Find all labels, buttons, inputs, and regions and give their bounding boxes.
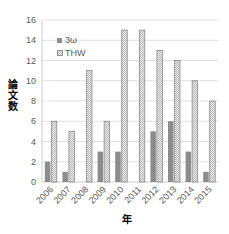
- bar-3w: [98, 152, 104, 182]
- x-tick-label: 2007: [52, 184, 73, 205]
- bar-thw: [51, 121, 57, 182]
- bar-thw: [69, 131, 75, 182]
- y-tick-label: 10: [26, 76, 36, 86]
- x-tick-label: 2008: [69, 184, 90, 205]
- x-tick-label: 2011: [122, 184, 143, 205]
- x-tick-label: 2012: [140, 184, 161, 205]
- bar-thw: [87, 71, 93, 182]
- x-axis-title: 年: [122, 213, 132, 225]
- bar-thw: [139, 30, 145, 182]
- y-tick-label: 4: [31, 137, 36, 147]
- legend-swatch-3w: [57, 38, 62, 43]
- bar-thw: [210, 101, 216, 182]
- y-tick-label: 12: [26, 56, 36, 66]
- bar-3w: [62, 172, 68, 182]
- legend: 3ω THW: [57, 35, 86, 58]
- bar-thw: [104, 121, 110, 182]
- x-tick-label: 2006: [34, 184, 55, 205]
- bar-thw: [175, 61, 181, 183]
- y-tick-label: 2: [31, 157, 36, 167]
- y-tick-label: 6: [31, 116, 36, 126]
- y-tick-label: 8: [31, 96, 36, 106]
- bar-3w: [203, 172, 209, 182]
- bar-thw: [192, 81, 198, 182]
- legend-swatch-thw: [58, 51, 63, 56]
- bar-chart: 0246810121416 20062007200820092010201120…: [0, 0, 229, 234]
- bar-3w: [45, 162, 51, 182]
- bar-thw: [122, 30, 128, 182]
- y-tick-label: 14: [26, 35, 36, 45]
- bar-thw: [157, 50, 163, 182]
- x-tick-label: 2009: [87, 184, 108, 205]
- x-tick-label: 2015: [192, 184, 213, 205]
- x-tick-label: 2013: [157, 184, 178, 205]
- bar-3w: [150, 131, 156, 182]
- x-tick-label: 2014: [175, 184, 196, 205]
- y-axis-title: 論文数: [8, 78, 19, 112]
- bar-3w: [168, 121, 174, 182]
- legend-label-3w: 3ω: [65, 35, 77, 45]
- bar-3w: [186, 152, 192, 182]
- y-tick-label: 0: [31, 177, 36, 187]
- bar-3w: [115, 152, 121, 182]
- x-tick-label: 2010: [104, 184, 125, 205]
- y-tick-label: 16: [26, 15, 36, 25]
- y-axis-ticks: 0246810121416: [26, 15, 36, 187]
- x-axis-ticks: 2006200720082009201020112012201320142015: [34, 184, 214, 205]
- legend-label-thw: THW: [65, 48, 86, 58]
